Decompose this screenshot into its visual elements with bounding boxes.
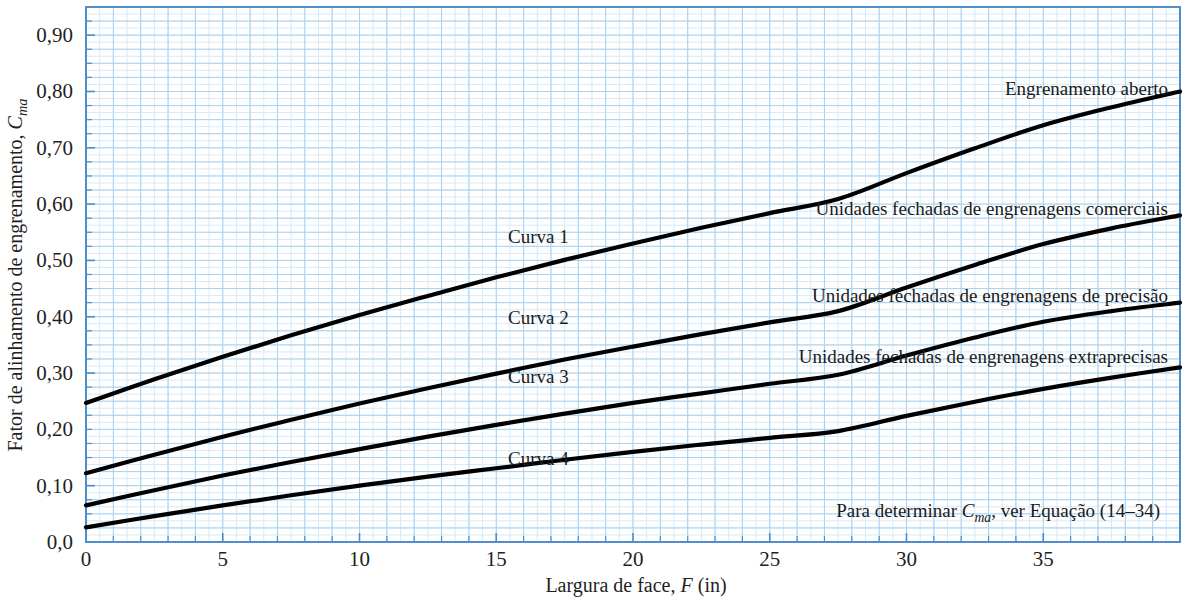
y-tick-label: 0,30 [36,361,73,385]
annotation-commercial-enclosed-units: Unidades fechadas de engrenagens comerci… [816,198,1168,219]
y-tick-label: 0,90 [36,23,73,47]
x-tick-label: 15 [486,547,507,571]
gear-mesh-alignment-factor-chart: 05101520253035 0,00,100,200,300,400,500,… [0,0,1186,607]
y-tick-label: 0,70 [36,136,73,160]
curve-label-4: Curva 4 [508,448,569,469]
x-tick-label: 5 [218,547,229,571]
curve-label-1: Curva 1 [508,226,569,247]
x-tick-label: 30 [896,547,917,571]
x-tick-label: 20 [623,547,644,571]
chart-figure: 05101520253035 0,00,100,200,300,400,500,… [0,0,1186,607]
x-tick-label: 10 [349,547,370,571]
x-tick-label: 35 [1033,547,1054,571]
curve-label-2: Curva 2 [508,307,569,328]
y-tick-label: 0,50 [36,248,73,272]
y-tick-label: 0,20 [36,417,73,441]
x-axis-title: Largura de face, F (in) [545,574,726,597]
y-tick-label: 0,40 [36,305,73,329]
annotation-precision-enclosed-units: Unidades fechadas de engrenagens de prec… [812,285,1168,306]
annotation-open-gearing: Engrenamento aberto [1005,78,1168,99]
y-tick-label: 0,80 [36,79,73,103]
y-tick-label: 0,0 [47,530,73,554]
annotation-extraprecision-enclosed-units: Unidades fechadas de engrenagens extrapr… [799,346,1168,367]
y-tick-label: 0,60 [36,192,73,216]
curve-label-3: Curva 3 [508,366,569,387]
y-tick-label: 0,10 [36,474,73,498]
x-tick-label: 0 [81,547,92,571]
x-tick-label: 25 [759,547,780,571]
